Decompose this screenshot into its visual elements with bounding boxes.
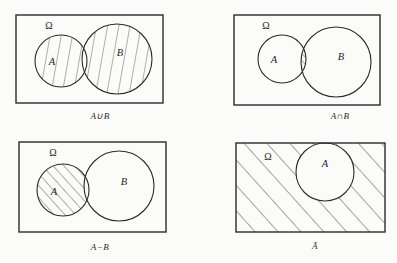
set-label-a-intersection: A	[270, 54, 278, 65]
panel-intersection: Ω A B	[234, 15, 380, 105]
set-label-b-difference: B	[121, 176, 128, 187]
universe-label-union: Ω	[45, 20, 52, 31]
set-label-b-union: B	[117, 47, 124, 58]
set-label-b-intersection: B	[338, 51, 345, 62]
universe-label-complement: Ω	[264, 151, 271, 162]
panel-union: Ω A B	[16, 15, 163, 103]
universe-label-difference: Ω	[49, 147, 56, 158]
set-circle-a-intersection	[258, 35, 306, 83]
set-label-a-difference: A	[50, 186, 58, 197]
set-circle-b-intersection	[301, 27, 371, 97]
universe-label-intersection: Ω	[262, 20, 269, 31]
shaded-region-intersection	[234, 15, 380, 105]
venn-diagram-figure: Ω A B Ω A B Ω A B	[0, 0, 397, 263]
caption-difference: A−B	[60, 242, 140, 252]
set-circle-b-difference	[84, 151, 154, 221]
panel-difference: Ω A B	[19, 142, 166, 232]
universe-rect-intersection	[234, 15, 380, 105]
set-label-a-complement: A	[321, 158, 329, 169]
set-label-a-union: A	[48, 56, 56, 67]
panel-complement: Ω A	[236, 143, 385, 232]
caption-union: A∪B	[60, 111, 140, 121]
caption-intersection: A∩B	[300, 111, 380, 121]
shaded-region-complement	[236, 143, 385, 232]
shaded-region-difference	[19, 142, 166, 232]
caption-complement: Ā	[280, 241, 350, 251]
shaded-region-union	[16, 15, 163, 103]
